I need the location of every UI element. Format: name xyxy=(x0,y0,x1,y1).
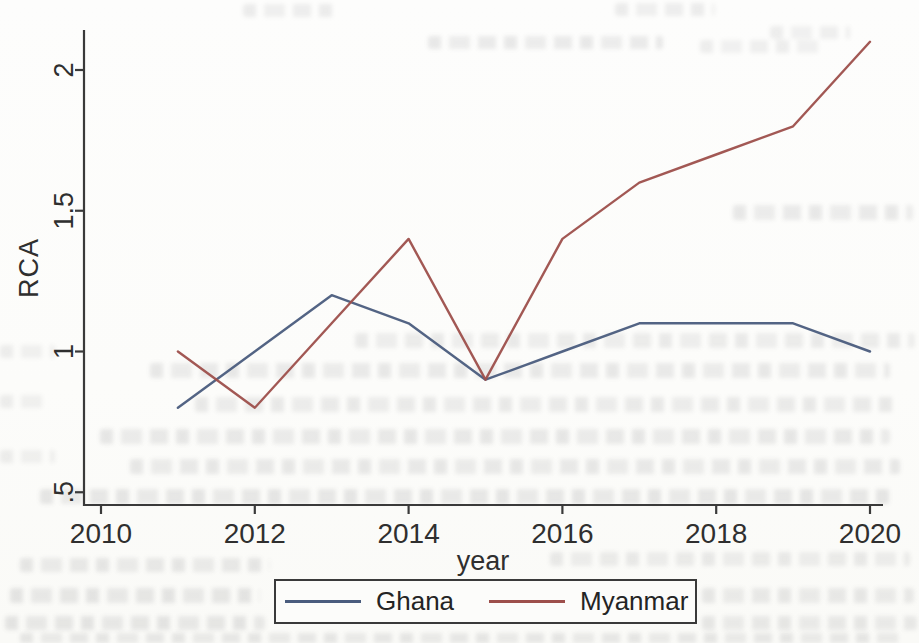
svg-text:2010: 2010 xyxy=(70,518,132,549)
svg-text:2016: 2016 xyxy=(531,518,593,549)
svg-text:2018: 2018 xyxy=(685,518,747,549)
svg-text:.5: .5 xyxy=(49,481,79,504)
svg-text:1.5: 1.5 xyxy=(49,192,79,230)
legend-line-sample-ghana xyxy=(285,600,361,602)
svg-text:2012: 2012 xyxy=(224,518,286,549)
legend-label-myanmar: Myanmar xyxy=(580,586,688,617)
y-axis-title: RCA xyxy=(14,238,45,298)
svg-text:1: 1 xyxy=(49,344,79,359)
svg-text:2020: 2020 xyxy=(839,518,901,549)
legend-item-myanmar: Myanmar xyxy=(489,581,688,622)
legend-line-sample-myanmar xyxy=(489,600,565,602)
legend-label-ghana: Ghana xyxy=(376,586,454,617)
svg-text:2014: 2014 xyxy=(377,518,439,549)
svg-text:2: 2 xyxy=(49,62,79,77)
legend-item-ghana: Ghana xyxy=(285,581,454,622)
chart-legend: Ghana Myanmar xyxy=(274,579,697,624)
x-axis-title: year xyxy=(457,546,510,577)
